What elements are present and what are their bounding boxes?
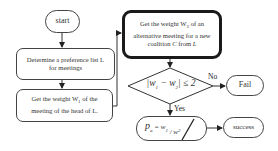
decision-condition: |w1 − w2| ≤ 2: [138, 78, 204, 94]
yes-edge-label: Yes: [174, 104, 185, 113]
start-label: start: [56, 17, 70, 26]
no-edge-label: No: [208, 72, 217, 81]
get-weight-w1-node: Get the weight W1 of the meeting of the …: [16, 89, 113, 122]
start-node: start: [45, 10, 80, 33]
success-label: success: [233, 123, 254, 132]
determine-preference-list-node: Determine a preference list L for meetin…: [16, 48, 115, 80]
step1-label: Determine a preference list L for meetin…: [23, 56, 108, 73]
step2-label: Get the weight W1 of the meeting of the …: [23, 95, 106, 115]
step3-label: Get the weight W2 of an alternative meet…: [130, 20, 214, 49]
fail-node: Fail: [226, 75, 264, 96]
formula-label: pa = w1 / w2: [145, 122, 181, 136]
fail-label: Fail: [239, 81, 251, 90]
decision-label: |w1 − w2| ≤ 2: [147, 79, 196, 92]
success-node: success: [223, 117, 264, 138]
probability-formula-node: pa = w1 / w2: [136, 116, 207, 141]
get-weight-w2-node: Get the weight W2 of an alternative meet…: [122, 10, 222, 59]
